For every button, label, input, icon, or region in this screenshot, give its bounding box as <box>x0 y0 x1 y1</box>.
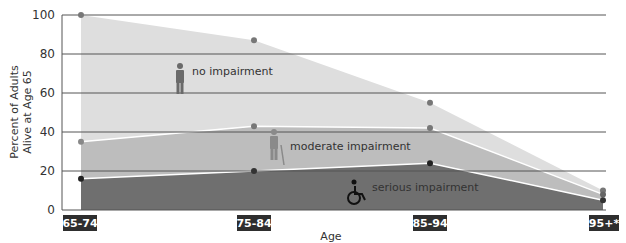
y-tick: 40 <box>40 125 55 139</box>
chart-canvas: 0 20 40 60 80 100 Percent of Adults Aliv… <box>0 0 626 243</box>
x-tick-95-plus: 95+* <box>589 215 620 231</box>
label-moderate-impairment: moderate impairment <box>290 140 411 153</box>
x-tick-85-94: 85-94 <box>412 215 448 231</box>
svg-text:Alive at Age 65: Alive at Age 65 <box>21 70 34 154</box>
x-tick-65-74: 65-74 <box>62 215 98 231</box>
y-tick: 60 <box>40 86 55 100</box>
svg-text:Percent of Adults: Percent of Adults <box>8 65 21 159</box>
y-axis-label: Percent of Adults Alive at Age 65 <box>8 65 34 159</box>
label-no-impairment: no impairment <box>192 65 274 78</box>
svg-text:85-94: 85-94 <box>412 217 448 230</box>
label-serious-impairment: serious impairment <box>372 181 479 194</box>
y-tick: 80 <box>40 47 55 61</box>
svg-text:95+*: 95+* <box>589 217 620 230</box>
y-tick: 100 <box>32 8 55 22</box>
svg-text:75-84: 75-84 <box>236 217 272 230</box>
y-tick: 0 <box>47 203 55 217</box>
y-tick: 20 <box>40 164 55 178</box>
x-tick-75-84: 75-84 <box>236 215 272 231</box>
x-axis-label: Age <box>320 230 342 243</box>
svg-text:65-74: 65-74 <box>62 217 98 230</box>
